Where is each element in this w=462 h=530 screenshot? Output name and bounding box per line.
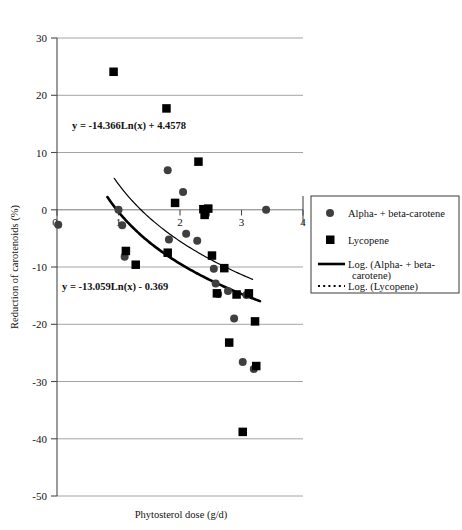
y-tick-label: 30 <box>36 32 48 44</box>
y-tick-label: -50 <box>32 490 47 502</box>
legend-label-carotene: Alpha- + beta-carotene <box>348 208 445 219</box>
scatter-chart-svg: 30 20 10 0 -10 -20 -30 -40 -50 0 1 2 3 4 <box>0 0 462 530</box>
data-point-lycopene <box>251 317 260 326</box>
data-point-carotene <box>164 166 172 174</box>
y-tick-labels: 30 20 10 0 -10 -20 -30 -40 -50 <box>32 32 47 502</box>
data-point-lycopene <box>245 289 254 298</box>
data-point-lycopene <box>171 199 180 208</box>
x-tick-label: 2 <box>177 216 183 228</box>
data-point-lycopene <box>213 289 222 298</box>
legend-label-log-lycopene: Log. (Lycopene) <box>348 281 418 293</box>
data-point-lycopene <box>162 104 171 113</box>
data-point-lycopene <box>109 68 118 77</box>
data-point-carotene <box>212 280 220 288</box>
data-point-lycopene <box>238 428 247 437</box>
data-point-lycopene <box>225 338 234 347</box>
data-point-carotene <box>239 358 247 366</box>
y-tick-label: -20 <box>32 318 47 330</box>
data-point-carotene <box>224 287 232 295</box>
data-point-carotene <box>230 315 238 323</box>
legend-marker-circle-icon <box>326 209 334 217</box>
x-tick-label: 3 <box>239 216 245 228</box>
data-point-carotene <box>182 230 190 238</box>
data-point-lycopene <box>204 204 213 213</box>
data-point-lycopene <box>131 260 140 269</box>
data-point-carotene <box>118 221 126 229</box>
y-tick-label: 0 <box>42 204 48 216</box>
data-point-carotene <box>210 265 218 273</box>
data-point-lycopene <box>163 248 172 257</box>
data-point-lycopene <box>208 251 217 259</box>
y-tick-label: 10 <box>36 147 48 159</box>
data-point-carotene <box>193 237 201 245</box>
y-tick-label: -10 <box>32 261 47 273</box>
data-point-lycopene <box>252 362 261 371</box>
y-tick-label: 20 <box>36 89 48 101</box>
y-tick-label: -40 <box>32 433 47 445</box>
data-point-lycopene <box>232 290 241 299</box>
y-tick-marks <box>51 38 57 496</box>
data-point-lycopene <box>194 157 203 166</box>
data-point-carotene <box>54 221 62 229</box>
data-point-lycopene <box>122 247 131 256</box>
y-tick-label: -30 <box>32 376 47 388</box>
x-axis-title: Phytosterol dose (g/d) <box>135 509 228 521</box>
equation-label-lycopene: y = -14.366Ln(x) + 4.4578 <box>72 120 186 132</box>
legend-marker-square-icon <box>326 236 335 245</box>
data-point-carotene <box>115 206 123 214</box>
data-point-lycopene <box>220 264 229 273</box>
data-point-carotene <box>262 206 270 214</box>
data-point-carotene <box>179 188 187 196</box>
equation-label-carotene: y = -13.059Ln(x) - 0.369 <box>62 281 168 293</box>
data-point-carotene <box>165 236 173 244</box>
y-axis-title: Reduction of carotenoids (%) <box>9 205 21 329</box>
legend-label-lycopene: Lycopene <box>348 235 389 246</box>
chart-figure: 30 20 10 0 -10 -20 -30 -40 -50 0 1 2 3 4 <box>0 0 462 530</box>
chart-legend: Alpha- + beta-carotene Lycopene Log. (Al… <box>311 196 459 293</box>
